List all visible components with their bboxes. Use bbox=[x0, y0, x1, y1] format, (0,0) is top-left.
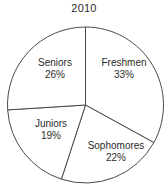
slice-label-freshmen-name: Freshmen bbox=[101, 57, 146, 68]
slice-label-seniors-name: Seniors bbox=[38, 57, 72, 68]
slice-label-juniors-name: Juniors bbox=[35, 118, 67, 129]
slice-label-sophomores-value: 22% bbox=[72, 152, 160, 164]
slice-label-freshmen: Freshmen 33% bbox=[94, 57, 154, 81]
slice-label-seniors-value: 26% bbox=[26, 69, 84, 81]
slice-label-juniors: Juniors 19% bbox=[22, 118, 80, 142]
slice-label-freshmen-value: 33% bbox=[94, 69, 154, 81]
slice-label-sophomores: Sophomores 22% bbox=[72, 140, 160, 164]
slice-label-seniors: Seniors 26% bbox=[26, 57, 84, 81]
pie-chart: 2010 Freshmen 33% Seniors 26% Juniors 19… bbox=[0, 0, 168, 194]
slice-label-sophomores-name: Sophomores bbox=[88, 140, 145, 151]
pie-svg bbox=[0, 0, 168, 194]
